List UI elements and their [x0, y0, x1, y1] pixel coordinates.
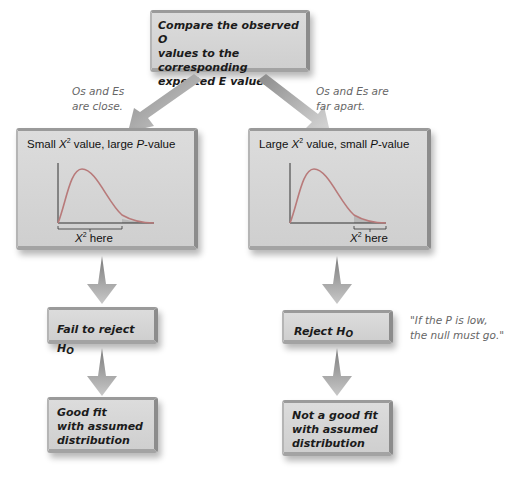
good-fit-line-3: distribution: [57, 434, 146, 448]
chi-square-curve-left-icon: [58, 163, 158, 229]
reject-label: Reject HO: [294, 325, 353, 338]
large-chi-square-box: Large X2 value, small P-value X2 here: [248, 128, 431, 250]
fail-to-reject-box: Fail to reject HO: [47, 307, 158, 344]
reject-box: Reject HO: [282, 310, 393, 344]
right-chart-title: Large X2 value, small P-value: [259, 137, 409, 150]
not-good-fit-line-1: Not a good fit: [292, 409, 381, 423]
arrow-down-left-2-icon: [87, 348, 117, 396]
not-good-fit-line-2: with assumed: [292, 423, 381, 437]
left-xlabel: X2 here: [75, 231, 113, 244]
not-good-fit-line-3: distribution: [292, 437, 381, 451]
note-far-line-1: Os and Es are: [316, 84, 389, 99]
arrow-down-left-1-icon: [87, 256, 117, 304]
arrow-down-right-1-icon: [322, 256, 352, 304]
small-chi-square-box: Small X2 value, large P-value X2 here: [16, 128, 198, 250]
compare-box: Compare the observed O values to the cor…: [150, 10, 310, 72]
chi-square-curve-right-icon: [290, 163, 390, 229]
note-far-line-2: far apart.: [316, 99, 389, 114]
quote-line-1: "If the P is low,: [410, 313, 504, 328]
note-close-line-2: are close.: [72, 99, 124, 114]
good-fit-line-1: Good fit: [57, 406, 146, 420]
note-close: Os and Es are close.: [72, 84, 124, 114]
left-chart-title: Small X2 value, large P-value: [27, 137, 175, 150]
quote-line-2: the null must go.": [410, 328, 504, 343]
good-fit-line-2: with assumed: [57, 420, 146, 434]
good-fit-box: Good fit with assumed distribution: [47, 397, 158, 453]
arrow-left-diagonal-icon: [120, 74, 210, 134]
note-far-apart: Os and Es are far apart.: [316, 84, 389, 114]
arrow-down-right-2-icon: [322, 348, 352, 396]
not-good-fit-box: Not a good fit with assumed distribution: [282, 400, 393, 456]
compare-line-1: Compare the observed O: [158, 19, 300, 47]
right-xlabel: X2 here: [350, 231, 388, 244]
mnemonic-quote: "If the P is low, the null must go.": [410, 313, 504, 343]
compare-line-2: values to the corresponding: [158, 47, 300, 75]
note-close-line-1: Os and Es: [72, 84, 124, 99]
